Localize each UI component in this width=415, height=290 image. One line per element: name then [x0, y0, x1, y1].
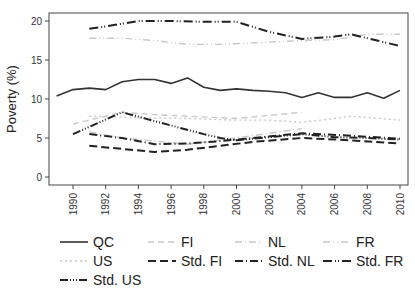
x-tick-label: 1994 — [133, 193, 144, 216]
x-tick-label: 2002 — [264, 193, 275, 216]
x-tick-label: 2006 — [329, 193, 340, 216]
poverty-line-chart: 05101520 1990199219941996199820002002200… — [0, 0, 415, 290]
series-std-us — [73, 112, 400, 140]
plot-border — [49, 13, 408, 185]
x-tick-label: 2008 — [362, 193, 373, 216]
series-layer — [57, 21, 400, 152]
x-tick-label: 1998 — [198, 193, 209, 216]
y-tick-label: 5 — [36, 133, 42, 144]
y-tick-label: 0 — [36, 172, 42, 183]
legend-item: NL — [235, 234, 286, 250]
legend-label: NL — [268, 234, 286, 250]
legend-label: Std. FI — [181, 253, 222, 269]
x-tick-label: 2000 — [231, 193, 242, 216]
x-tick-label: 2004 — [296, 193, 307, 216]
plot-frame — [49, 13, 408, 185]
y-tick-label: 20 — [31, 16, 43, 27]
legend-label: FR — [356, 234, 375, 250]
series-fi — [73, 112, 302, 124]
series-qc — [57, 78, 400, 98]
legend-item: Std. US — [60, 272, 141, 288]
legend-item: FR — [323, 234, 375, 250]
legend-label: FI — [181, 234, 193, 250]
legend-label: Std. US — [93, 272, 141, 288]
legend-item: Std. NL — [235, 253, 315, 269]
y-axis: 05101520 — [31, 16, 49, 183]
legend-label: US — [93, 253, 112, 269]
legend-label: Std. FR — [356, 253, 403, 269]
legend-label: QC — [93, 234, 114, 250]
series-std-fr — [89, 21, 400, 46]
legend-label: Std. NL — [268, 253, 315, 269]
x-axis: 1990199219941996199820002002200420062008… — [68, 185, 406, 215]
y-tick-label: 15 — [31, 55, 43, 66]
y-axis-title: Poverty (%) — [4, 65, 19, 133]
y-tick-label: 10 — [31, 94, 43, 105]
legend-item: Std. FI — [148, 253, 222, 269]
x-tick-label: 2010 — [395, 193, 406, 216]
legend-item: FI — [148, 234, 193, 250]
legend: QCFINLFRUSStd. FIStd. NLStd. FRStd. US — [60, 234, 403, 288]
legend-item: Std. FR — [323, 253, 403, 269]
legend-item: QC — [60, 234, 114, 250]
x-tick-label: 1992 — [100, 193, 111, 216]
x-tick-label: 1990 — [68, 193, 79, 216]
legend-item: US — [60, 253, 112, 269]
x-tick-label: 1996 — [166, 193, 177, 216]
